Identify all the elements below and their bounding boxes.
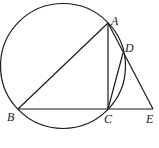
geometry-diagram: A B C D E bbox=[0, 0, 159, 148]
label-B: B bbox=[7, 110, 15, 124]
label-D: D bbox=[124, 41, 134, 55]
segment-AB bbox=[18, 23, 108, 109]
label-E: E bbox=[145, 112, 154, 126]
segment-AE bbox=[108, 23, 153, 109]
label-C: C bbox=[104, 112, 113, 126]
label-A: A bbox=[110, 14, 119, 28]
